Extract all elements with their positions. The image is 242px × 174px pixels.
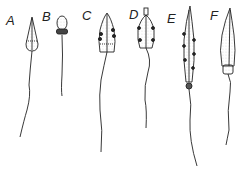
cell-d-drawing xyxy=(138,8,155,128)
cell-a-drawing xyxy=(20,17,38,137)
cell-e-drawing xyxy=(183,6,197,166)
label-c: C xyxy=(82,9,91,22)
drawings xyxy=(0,0,242,174)
sperm-morphology-figure: A B C D E F xyxy=(0,0,242,174)
cell-b-drawing xyxy=(57,16,68,96)
label-b: B xyxy=(42,10,51,23)
label-e: E xyxy=(167,12,176,25)
cell-c-drawing xyxy=(98,13,115,152)
label-a: A xyxy=(6,14,15,27)
label-f: F xyxy=(210,9,218,22)
label-d: D xyxy=(129,8,138,21)
cell-f-drawing xyxy=(221,8,236,145)
